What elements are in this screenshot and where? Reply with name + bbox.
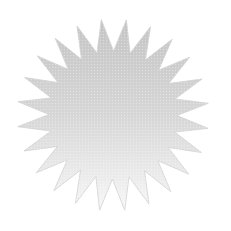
starburst-canvas (0, 0, 231, 231)
